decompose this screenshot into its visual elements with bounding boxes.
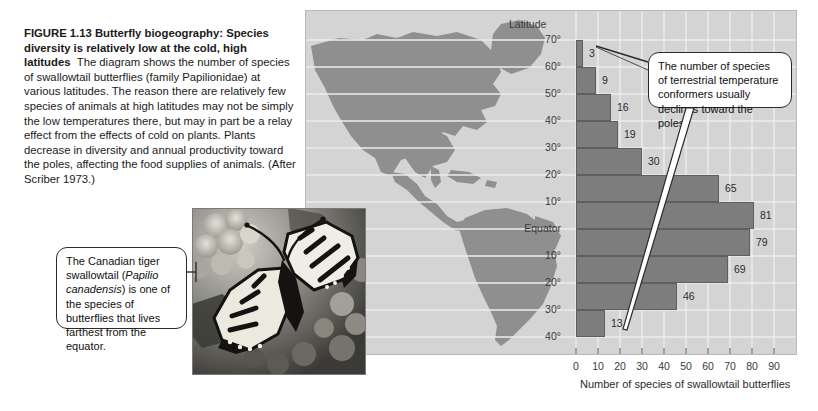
bar-lat-70n bbox=[576, 40, 583, 67]
xtick-0: 0 bbox=[566, 360, 586, 372]
figure-caption: FIGURE 1.13 Butterfly biogeography: Spec… bbox=[24, 26, 298, 187]
lat-tick-60n: 60° bbox=[501, 60, 561, 72]
bar-lat-10n bbox=[576, 202, 754, 229]
bar-lat-40s bbox=[576, 310, 605, 337]
xtick-50: 50 bbox=[676, 360, 696, 372]
lat-tick-70n: 70° bbox=[501, 33, 561, 45]
bar-lat-40n bbox=[576, 121, 618, 148]
xtick-90: 90 bbox=[764, 360, 784, 372]
figure-root: FIGURE 1.13 Butterfly biogeography: Spec… bbox=[0, 0, 818, 411]
bar-value-10s: 79 bbox=[756, 237, 768, 248]
bar-value-70n: 3 bbox=[589, 48, 595, 59]
lat-tick-40n: 40° bbox=[501, 114, 561, 126]
lat-tick-10s: 10° bbox=[501, 249, 561, 261]
callout-temperature-conformers: The number of species of terrestrial tem… bbox=[648, 52, 792, 108]
bar-value-10n: 81 bbox=[760, 210, 772, 221]
lat-tick-30s: 30° bbox=[501, 303, 561, 315]
bar-value-60n: 9 bbox=[602, 75, 608, 86]
lat-tick-30n: 30° bbox=[501, 141, 561, 153]
bar-lat-20s bbox=[576, 256, 728, 283]
bar-value-20n: 65 bbox=[725, 183, 737, 194]
x-axis-title: Number of species of swallowtail butterf… bbox=[580, 378, 790, 390]
xtick-70: 70 bbox=[720, 360, 740, 372]
xtick-10: 10 bbox=[588, 360, 608, 372]
bar-lat-50n bbox=[576, 94, 611, 121]
lat-tick-50n: 50° bbox=[501, 87, 561, 99]
bar-value-40n: 19 bbox=[624, 129, 636, 140]
xtick-20: 20 bbox=[610, 360, 630, 372]
bar-value-30s: 46 bbox=[683, 291, 695, 302]
latitude-axis-title: Latitude bbox=[509, 18, 546, 30]
bar-lat-30n bbox=[576, 148, 642, 175]
callout-canadian-tiger-swallowtail: The Canadian tiger swallowtail (Papilio … bbox=[56, 247, 187, 329]
bar-value-40s: 13 bbox=[611, 318, 623, 329]
lat-tick-10n: 10° bbox=[501, 195, 561, 207]
lat-tick-equator: Equator bbox=[491, 222, 561, 234]
bar-lat-10s bbox=[576, 229, 750, 256]
butterfly-photo bbox=[192, 208, 366, 375]
lat-tick-20s: 20° bbox=[501, 276, 561, 288]
xtick-60: 60 bbox=[698, 360, 718, 372]
lat-tick-40s: 40° bbox=[501, 330, 561, 342]
bar-value-50n: 16 bbox=[617, 102, 629, 113]
bar-lat-60n bbox=[576, 67, 596, 94]
xtick-80: 80 bbox=[742, 360, 762, 372]
bar-value-20s: 69 bbox=[734, 264, 746, 275]
bar-value-30n: 30 bbox=[648, 156, 660, 167]
xtick-40: 40 bbox=[654, 360, 674, 372]
bar-lat-30s bbox=[576, 283, 677, 310]
xtick-30: 30 bbox=[632, 360, 652, 372]
bar-lat-20n bbox=[576, 175, 719, 202]
figure-label: FIGURE 1.13 bbox=[24, 27, 92, 39]
figure-body: The diagram shows the number of species … bbox=[24, 56, 296, 185]
lat-tick-20n: 20° bbox=[501, 168, 561, 180]
